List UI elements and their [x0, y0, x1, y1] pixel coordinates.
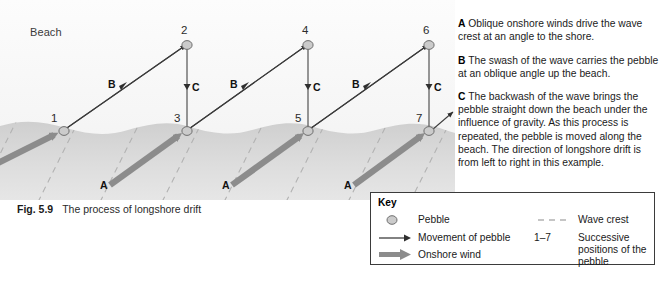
explanation-item-b: B The swash of the wave carries the pebb… [458, 54, 664, 80]
backwash-label-c-3: C [434, 82, 442, 93]
figure-caption-text: The process of longshore drift [62, 203, 201, 215]
explanation-panel: A Oblique onshore winds drive the wave c… [458, 7, 664, 178]
diagram-svg [0, 0, 455, 200]
longshore-drift-diagram: Beach 1 2 3 4 5 6 7 B B B C C C A A A [0, 0, 455, 200]
swash-label-b-2: B [230, 79, 238, 90]
key-movement-arrow-icon [378, 232, 414, 244]
wind-label-a-1: A [100, 180, 108, 191]
pebble-2 [182, 41, 192, 50]
pebble-number-5: 5 [295, 113, 301, 125]
key-label-successive-positions: Successive positions of the pebble [578, 232, 652, 268]
explanation-tag-b: B [458, 55, 465, 66]
explanation-tag-c: C [458, 91, 465, 102]
swash-label-b-1: B [108, 79, 116, 90]
explanation-text-c: The backwash of the wave brings the pebb… [458, 91, 648, 167]
pebble-1 [59, 127, 69, 136]
pebble-number-7: 7 [416, 113, 422, 125]
swash-label-b-3: B [352, 79, 360, 90]
key-label-wave-crest: Wave crest [578, 214, 629, 226]
pebble-7 [424, 127, 434, 136]
explanation-text-b: The swash of the wave carries the pebble… [458, 55, 658, 79]
wind-label-a-2: A [222, 180, 230, 191]
explanation-item-a: A Oblique onshore winds drive the wave c… [458, 17, 664, 43]
key-onshore-wind-icon [378, 248, 414, 262]
key-label-movement: Movement of pebble [418, 232, 510, 244]
backwash-label-c-1: C [192, 82, 200, 93]
figure-page: Beach 1 2 3 4 5 6 7 B B B C C C A A A Fi… [0, 0, 672, 282]
figure-caption: Fig. 5.9The process of longshore drift [17, 203, 201, 215]
backwash-label-c-2: C [313, 82, 321, 93]
key-pebble-icon [383, 214, 403, 226]
pebble-number-3: 3 [174, 113, 180, 125]
beach-label: Beach [30, 26, 62, 38]
pebble-6 [424, 41, 434, 50]
explanation-tag-a: A [458, 18, 465, 29]
pebble-4 [303, 41, 313, 50]
pebble-number-1: 1 [51, 113, 57, 125]
pebble-number-4: 4 [302, 25, 308, 37]
explanation-item-c: C The backwash of the wave brings the pe… [458, 90, 664, 169]
explanation-text-a: Oblique onshore winds drive the wave cre… [458, 18, 642, 42]
key-label-onshore-wind: Onshore wind [418, 249, 481, 261]
pebble-number-6: 6 [423, 25, 429, 37]
pebble-number-2: 2 [181, 25, 187, 37]
key-label-pebble: Pebble [418, 214, 450, 226]
figure-number: Fig. 5.9 [17, 203, 53, 215]
key-range-1-7: 1–7 [534, 232, 551, 244]
pebble-5 [303, 127, 313, 136]
key-box: Key Pebble Movement of pebble Onshore wi… [370, 192, 655, 265]
wind-label-a-3: A [344, 180, 352, 191]
key-wave-crest-icon [537, 214, 569, 226]
key-title: Key [378, 197, 397, 208]
pebble-3 [182, 127, 192, 136]
